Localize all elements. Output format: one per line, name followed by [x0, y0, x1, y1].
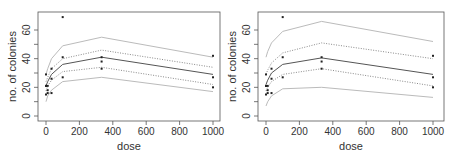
plot-frame — [258, 12, 444, 121]
x-axis: 02004006008001000dose — [263, 121, 444, 152]
data-point — [51, 68, 53, 70]
data-point — [62, 16, 64, 18]
y-tick-label: 60 — [21, 24, 32, 36]
left-chart: 02004006008001000dose0204060no. of colon… — [0, 0, 226, 155]
y-tick-label: 0 — [241, 113, 252, 119]
data-point — [321, 61, 323, 63]
data-point — [271, 92, 273, 94]
x-tick-label: 800 — [171, 126, 188, 137]
y-tick-label: 60 — [241, 24, 252, 36]
y-tick-label: 20 — [21, 81, 32, 93]
x-tick-label: 800 — [391, 126, 408, 137]
y-axis: 0204060no. of colonies — [6, 24, 38, 119]
data-point — [212, 86, 214, 88]
x-tick-label: 1000 — [202, 126, 225, 137]
series-line — [266, 21, 433, 57]
series-lines — [266, 21, 433, 106]
x-tick-label: 400 — [104, 126, 121, 137]
x-tick-label: 600 — [138, 126, 155, 137]
series-lines — [46, 37, 213, 102]
plot-frame — [38, 12, 220, 121]
x-tick-label: 0 — [43, 126, 49, 137]
data-point — [47, 89, 49, 91]
data-point — [321, 56, 323, 58]
series-line — [46, 37, 213, 74]
x-axis-label: dose — [117, 140, 141, 152]
series-line — [46, 50, 213, 82]
data-point — [51, 92, 53, 94]
right-chart-panel: 02004006008001000dose0204060no. of colon… — [226, 0, 452, 155]
data-point — [271, 78, 273, 80]
data-point — [282, 76, 284, 78]
data-points — [265, 16, 434, 95]
data-point — [267, 85, 269, 87]
data-point — [101, 68, 103, 70]
data-point — [282, 16, 284, 18]
y-tick-label: 40 — [241, 53, 252, 65]
series-line — [46, 57, 213, 86]
series-line — [266, 87, 433, 106]
x-axis: 02004006008001000dose — [43, 121, 224, 152]
data-point — [47, 92, 49, 94]
y-axis-label: no. of colonies — [6, 31, 18, 102]
x-tick-label: 200 — [291, 126, 308, 137]
x-tick-label: 400 — [324, 126, 341, 137]
data-point — [265, 73, 267, 75]
x-tick-label: 600 — [358, 126, 375, 137]
series-line — [266, 58, 433, 85]
x-tick-label: 200 — [71, 126, 88, 137]
data-point — [212, 76, 214, 78]
x-axis-label: dose — [339, 140, 363, 152]
data-point — [432, 55, 434, 57]
y-tick-label: 0 — [21, 113, 32, 119]
data-point — [282, 56, 284, 58]
data-point — [321, 68, 323, 70]
data-point — [432, 76, 434, 78]
right-chart: 02004006008001000dose0204060no. of colon… — [226, 0, 453, 155]
x-tick-label: 1000 — [422, 126, 445, 137]
data-points — [45, 16, 214, 95]
data-point — [267, 89, 269, 91]
y-axis-label: no. of colonies — [226, 31, 238, 102]
y-axis: 0204060no. of colonies — [226, 24, 258, 119]
y-tick-label: 20 — [241, 81, 252, 93]
left-chart-panel: 02004006008001000dose0204060no. of colon… — [0, 0, 226, 155]
data-point — [62, 76, 64, 78]
series-line — [266, 43, 433, 75]
y-tick-label: 40 — [21, 53, 32, 65]
x-tick-label: 0 — [263, 126, 269, 137]
data-point — [271, 68, 273, 70]
data-point — [101, 61, 103, 63]
data-point — [47, 85, 49, 87]
data-point — [267, 92, 269, 94]
data-point — [432, 86, 434, 88]
data-point — [51, 78, 53, 80]
data-point — [212, 55, 214, 57]
data-point — [101, 56, 103, 58]
data-point — [45, 73, 47, 75]
series-line — [266, 69, 433, 91]
data-point — [62, 56, 64, 58]
